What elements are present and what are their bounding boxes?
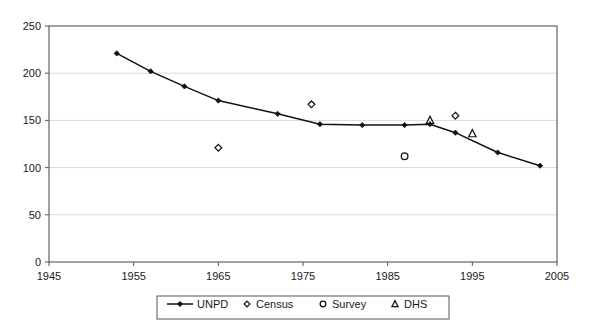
y-tick-label: 250 xyxy=(23,20,41,32)
chart-legend: UNPDCensusSurveyDHS xyxy=(157,296,449,319)
mortality-trend-line-chart: 050100150200250 194519551965197519851995… xyxy=(0,0,599,330)
x-tick-label: 1965 xyxy=(206,270,230,282)
x-tick-label: 1995 xyxy=(460,270,484,282)
y-tick-label: 50 xyxy=(29,209,41,221)
x-tick-label: 1975 xyxy=(291,270,315,282)
x-tick-label: 2005 xyxy=(545,270,569,282)
legend-label-census: Census xyxy=(256,298,294,310)
legend-label-dhs: DHS xyxy=(404,298,427,310)
y-tick-label: 100 xyxy=(23,162,41,174)
chart-container: 050100150200250 194519551965197519851995… xyxy=(0,0,599,330)
y-tick-label: 150 xyxy=(23,114,41,126)
x-tick-label: 1955 xyxy=(121,270,145,282)
y-tick-label: 200 xyxy=(23,67,41,79)
legend-label-unpd: UNPD xyxy=(197,298,228,310)
legend-label-survey: Survey xyxy=(332,298,367,310)
x-tick-label: 1945 xyxy=(37,270,61,282)
x-tick-label: 1985 xyxy=(375,270,399,282)
y-tick-label: 0 xyxy=(35,256,41,268)
